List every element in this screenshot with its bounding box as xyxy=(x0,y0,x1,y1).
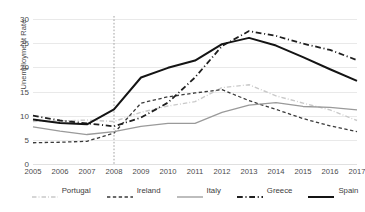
x-tick-label: 2015 xyxy=(295,167,312,176)
y-tick-label: 10 xyxy=(20,111,29,120)
x-tick-label: 2010 xyxy=(160,167,177,176)
x-tick-label: 2009 xyxy=(133,167,150,176)
x-tick-label: 2007 xyxy=(79,167,96,176)
x-tick-label: 2017 xyxy=(349,167,365,176)
legend-swatch-greece xyxy=(237,187,263,195)
x-tick-label: 2013 xyxy=(241,167,258,176)
legend-swatch-italy xyxy=(177,187,203,195)
x-tick-label: 2005 xyxy=(25,167,42,176)
x-tick-label: 2016 xyxy=(322,167,339,176)
legend-label: Ireland xyxy=(137,186,161,195)
y-tick-label: 15 xyxy=(20,87,29,96)
series-line-greece xyxy=(33,31,357,126)
y-tick-label: 20 xyxy=(20,63,29,72)
series-line-ireland xyxy=(33,90,357,143)
legend-label: Italy xyxy=(207,186,221,195)
y-tick-label: 25 xyxy=(20,39,29,48)
legend-item-greece[interactable]: Greece xyxy=(237,186,293,195)
legend-swatch-portugal xyxy=(32,187,58,195)
series-line-portugal xyxy=(33,85,357,122)
legend-label: Portugal xyxy=(62,186,91,195)
series-line-italy xyxy=(33,103,357,135)
legend-item-ireland[interactable]: Ireland xyxy=(107,186,161,195)
legend-item-portugal[interactable]: Portugal xyxy=(32,186,91,195)
chart-legend: PortugalIrelandItalyGreeceSpain xyxy=(33,186,357,195)
x-tick-label: 2012 xyxy=(214,167,231,176)
legend-item-italy[interactable]: Italy xyxy=(177,186,221,195)
x-tick-label: 2008 xyxy=(106,167,123,176)
legend-label: Greece xyxy=(267,186,293,195)
y-tick-label: 5 xyxy=(25,135,29,144)
x-tick-label: 2014 xyxy=(268,167,285,176)
legend-swatch-ireland xyxy=(107,187,133,195)
plot-area: 051015202530 200520062007200820092010201… xyxy=(33,19,357,164)
series-lines xyxy=(33,19,357,164)
legend-item-spain[interactable]: Spain xyxy=(308,186,358,195)
legend-swatch-spain xyxy=(308,187,334,195)
x-tick-label: 2011 xyxy=(187,167,203,176)
gridline xyxy=(33,164,357,165)
x-tick-label: 2006 xyxy=(52,167,69,176)
y-tick-label: 30 xyxy=(20,15,29,24)
legend-label: Spain xyxy=(338,186,358,195)
series-line-spain xyxy=(33,38,357,125)
